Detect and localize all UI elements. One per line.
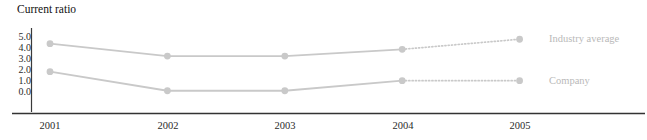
series-line-segment (402, 39, 519, 49)
data-point-marker (281, 53, 288, 60)
data-point-marker (164, 87, 171, 94)
data-point-marker (516, 36, 523, 43)
series-company (47, 68, 523, 94)
series-line-segment (50, 72, 167, 91)
data-point-marker (399, 77, 406, 84)
data-point-marker (164, 53, 171, 60)
current-ratio-chart: Current ratio 5.0 4.0 3.0 2.0 1.0 0.0 20… (0, 0, 647, 140)
data-point-marker (47, 40, 54, 47)
data-point-marker (281, 87, 288, 94)
plot-area (0, 0, 647, 140)
data-point-marker (47, 68, 54, 75)
series-industry-average (47, 36, 523, 60)
series-line-segment (50, 44, 167, 56)
series-line-segment (285, 49, 402, 56)
series-line-segment (285, 81, 402, 91)
data-point-marker (516, 77, 523, 84)
data-point-marker (399, 46, 406, 53)
